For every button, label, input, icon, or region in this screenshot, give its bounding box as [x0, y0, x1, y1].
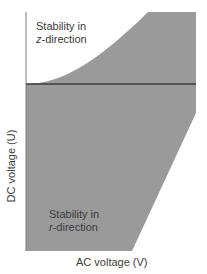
- stability-diagram-plot: [0, 0, 207, 274]
- region-label-z-line1: Stability in: [36, 20, 87, 33]
- region-label-r-line2: r-direction: [49, 221, 99, 234]
- region-label-z-direction: Stability in z-direction: [36, 20, 87, 46]
- region-label-r-line1: Stability in: [49, 208, 99, 221]
- region-label-z-line2: z-direction: [36, 33, 87, 46]
- z-direction-suffix: -direction: [42, 33, 87, 45]
- x-axis-label: AC voltage (V): [76, 256, 148, 269]
- region-label-r-direction: Stability in r-direction: [49, 208, 99, 234]
- r-direction-suffix: -direction: [53, 221, 98, 233]
- y-axis-label: DC voltage (U): [5, 130, 18, 203]
